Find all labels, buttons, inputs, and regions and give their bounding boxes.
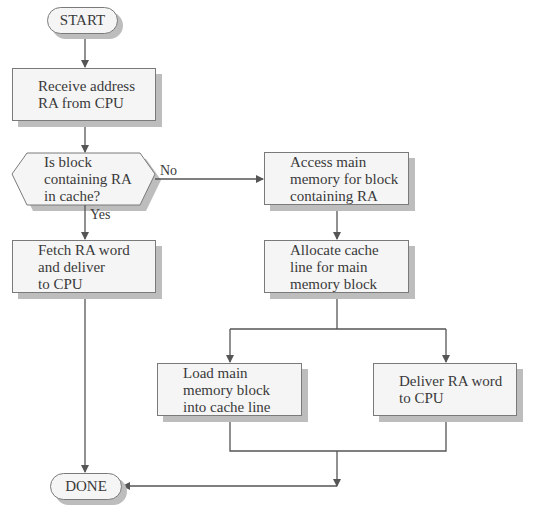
line-merge (230, 416, 446, 451)
fetch-deliver-node[interactable]: Fetch RA word and deliver to CPU (12, 240, 156, 293)
start-node[interactable]: START (47, 7, 118, 34)
yes-edge-label: Yes (90, 207, 110, 223)
decision-label: Is block containing RA in cache? (44, 154, 132, 205)
fetch-deliver-label: Fetch RA word and deliver to CPU (38, 241, 149, 292)
load-memory-block-label: Load main memory block into cache line (183, 364, 295, 415)
receive-address-label: Receive address RA from CPU (38, 78, 149, 112)
deliver-ra-word-label: Deliver RA word to CPU (399, 373, 510, 407)
deliver-ra-word-node[interactable]: Deliver RA word to CPU (373, 363, 517, 416)
allocate-cache-line-node[interactable]: Allocate cache line for main memory bloc… (264, 240, 409, 293)
receive-address-node[interactable]: Receive address RA from CPU (12, 68, 156, 121)
done-node[interactable]: DONE (50, 473, 122, 500)
allocate-cache-line-label: Allocate cache line for main memory bloc… (290, 241, 402, 292)
access-main-memory-label: Access main memory for block containing … (290, 153, 402, 204)
access-main-memory-node[interactable]: Access main memory for block containing … (264, 152, 409, 205)
flowchart-canvas: START Receive address RA from CPU Is blo… (0, 0, 535, 518)
no-edge-label: No (160, 163, 177, 179)
load-memory-block-node[interactable]: Load main memory block into cache line (157, 363, 302, 416)
